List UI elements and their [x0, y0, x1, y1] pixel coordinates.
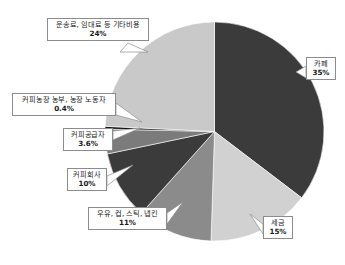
pie-chart: 운송료, 임대료 등 기타비용 24% 카페 35% 커피농장 농부, 농장 노…: [0, 0, 345, 265]
callout-suppliers-value: 3.6%: [67, 140, 109, 148]
callout-other: 운송료, 임대료 등 기타비용 24%: [47, 18, 149, 41]
callout-tax: 세금 15%: [263, 216, 293, 239]
callout-company: 커피회사 10%: [67, 168, 107, 191]
callout-company-value: 10%: [71, 180, 103, 188]
callout-farmers-value: 0.4%: [16, 105, 112, 113]
callout-cafe-value: 35%: [310, 69, 332, 77]
callout-suppliers: 커피공급자 3.6%: [63, 128, 113, 151]
callout-cafe: 카페 35%: [306, 57, 336, 80]
callout-farmers: 커피농장 농부, 농장 노동자 0.4%: [12, 93, 116, 116]
callout-other-value: 24%: [51, 30, 145, 38]
callout-supplies-value: 11%: [92, 219, 163, 227]
callout-supplies: 우유, 컵, 스틱, 냅킨 11%: [88, 207, 167, 230]
callout-tax-value: 15%: [267, 228, 289, 236]
